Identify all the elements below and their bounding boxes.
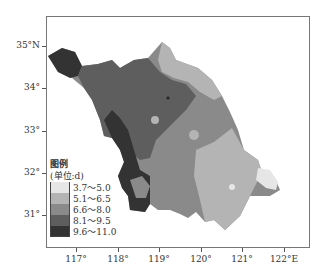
region-5-1-6-5-spot-a	[189, 130, 199, 140]
x-label: 121°	[222, 254, 262, 264]
x-tick	[284, 248, 285, 252]
x-label: 120°	[181, 254, 221, 264]
legend-row: 9.6～11.0	[50, 226, 116, 237]
legend-title: 图例	[50, 158, 116, 170]
legend-label: 9.6～11.0	[73, 225, 116, 238]
x-label: 122°E	[264, 254, 304, 264]
y-tick	[42, 88, 46, 89]
region-9-6-11-0-dot	[167, 97, 170, 100]
y-label: 33°	[8, 125, 40, 135]
map-legend: 图例 (单位:d) 3.7～5.0 5.1～6.5 6.6～8.0 8.1～9.…	[50, 158, 116, 237]
legend-swatch	[50, 215, 70, 226]
x-label: 118°	[98, 254, 138, 264]
x-tick	[76, 248, 77, 252]
x-label: 117°	[56, 254, 96, 264]
x-tick	[242, 248, 243, 252]
choropleth-map	[0, 0, 322, 272]
legend-swatch	[50, 204, 70, 215]
legend-swatch	[50, 193, 70, 204]
y-label: 34°	[8, 82, 40, 92]
region-5-1-6-5-spot-b	[151, 116, 159, 124]
x-label: 119°	[139, 254, 179, 264]
y-tick	[42, 131, 46, 132]
y-label: 31°	[8, 209, 40, 219]
y-tick	[42, 173, 46, 174]
y-label: 35°N	[8, 40, 40, 50]
legend-swatch	[50, 182, 70, 193]
y-tick	[42, 215, 46, 216]
legend-swatch	[50, 226, 70, 237]
region-3-7-5-0-spot	[229, 184, 235, 190]
region-9-6-11-0	[48, 48, 82, 78]
x-tick	[201, 248, 202, 252]
y-tick	[42, 46, 46, 47]
x-tick	[118, 248, 119, 252]
x-tick	[159, 248, 160, 252]
y-label: 32°	[8, 167, 40, 177]
